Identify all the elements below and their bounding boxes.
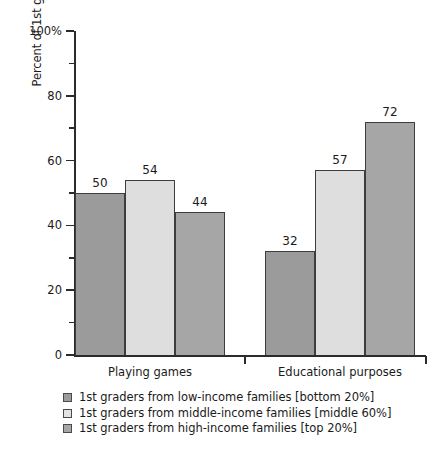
legend-item-low-income[interactable]: 1st graders from low-income families [bo… (63, 390, 433, 406)
y-minor-tick-mark (69, 322, 74, 324)
bar-value-label: 57 (309, 154, 371, 167)
y-minor-tick-mark (69, 192, 74, 194)
y-minor-tick-mark (69, 257, 74, 259)
x-tick-mark (425, 356, 427, 364)
y-tick-label: 20 (2, 284, 62, 296)
bar (125, 180, 175, 355)
y-axis-title-label: Percent of 1st graders who used computer… (29, 0, 45, 88)
legend-item-middle-income[interactable]: 1st graders from middle-income families … (63, 406, 433, 422)
bar-value-label: 50 (69, 177, 131, 190)
bar (315, 170, 365, 355)
y-minor-tick-mark (69, 127, 74, 129)
legend-label-high-income: 1st graders from high-income families [t… (79, 422, 357, 435)
bar (175, 212, 225, 355)
y-minor-tick-mark (69, 63, 74, 65)
legend-label-middle-income: 1st graders from middle-income families … (79, 407, 391, 420)
bar-value-label: 44 (169, 196, 231, 209)
y-tick-mark (66, 289, 74, 291)
bar-value-label: 54 (119, 164, 181, 177)
y-tick-mark (66, 160, 74, 162)
group-label: Playing games (50, 366, 250, 379)
legend-swatch-icon-low-income (63, 393, 72, 402)
y-tick-mark (66, 225, 74, 227)
y-tick-label: 60 (2, 155, 62, 167)
y-tick-label: 40 (2, 219, 62, 231)
bar (365, 122, 415, 355)
y-tick-mark (66, 354, 74, 356)
y-tick-label: 80 (2, 90, 62, 102)
x-tick-mark (244, 356, 246, 364)
bar-value-label: 32 (259, 235, 321, 248)
legend-swatch-icon-middle-income (63, 409, 72, 418)
y-tick-label: 0 (2, 349, 62, 361)
legend-label-low-income: 1st graders from low-income families [bo… (79, 391, 374, 404)
y-tick-mark (66, 95, 74, 97)
bar (265, 251, 315, 355)
x-axis-line (74, 355, 426, 357)
bar (75, 193, 125, 355)
bar-value-label: 72 (359, 106, 421, 119)
legend-swatch-icon-high-income (63, 424, 72, 433)
legend-item-high-income[interactable]: 1st graders from high-income families [t… (63, 421, 433, 437)
legend: 1st graders from low-income families [bo… (63, 390, 433, 437)
y-tick-label: 100% (2, 25, 62, 37)
bar-chart: Percent of 1st graders who used computer… (0, 0, 444, 450)
y-axis-title: Percent of 1st graders who used computer… (29, 0, 45, 88)
group-label: Educational purposes (240, 366, 440, 379)
y-tick-mark (66, 30, 74, 32)
